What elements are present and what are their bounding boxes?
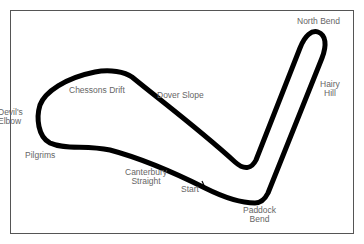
label-canterbury-straight-line2: Straight xyxy=(125,177,167,186)
track-path xyxy=(38,32,325,203)
label-north-bend: North Bend xyxy=(297,17,340,26)
label-dover-slope: Dover Slope xyxy=(157,91,204,100)
label-hairy-hill: Hairy Hill xyxy=(320,80,340,98)
label-start: Start xyxy=(181,185,199,194)
label-chessons-drift: Chessons Drift xyxy=(69,86,125,95)
label-paddock-bend-line2: Bend xyxy=(243,215,276,224)
label-paddock-bend: Paddock Bend xyxy=(243,206,276,224)
label-pilgrims: Pilgrims xyxy=(25,151,55,160)
race-track xyxy=(0,0,364,244)
label-devils-elbow-line2: Elbow xyxy=(0,117,23,126)
label-devils-elbow: Devil's Elbow xyxy=(0,108,23,126)
label-canterbury-straight: Canterbury Straight xyxy=(125,168,167,186)
label-hairy-hill-line2: Hill xyxy=(320,89,340,98)
